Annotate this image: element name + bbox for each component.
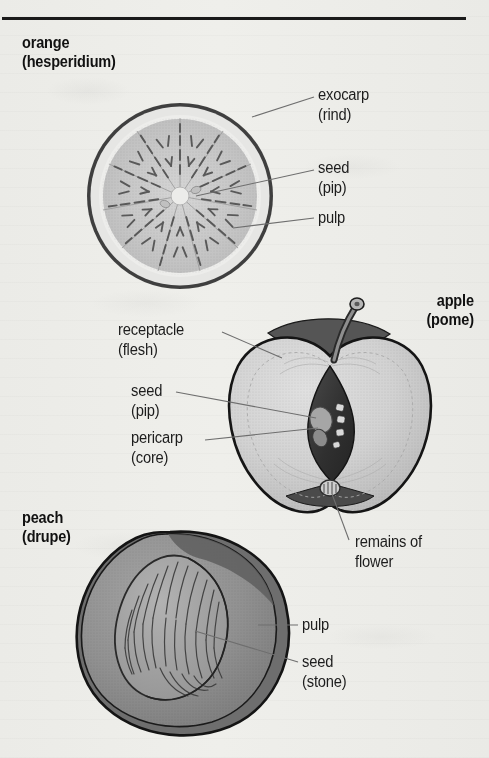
peach-label-seed-line1: seed (302, 652, 347, 672)
peach-illustration (0, 0, 489, 758)
peach-label-seed: seed (stone) (302, 652, 347, 691)
peach-label-seed-line2: (stone) (302, 672, 347, 692)
peach-label-pulp-text: pulp (302, 615, 329, 635)
peach-label-pulp: pulp (302, 615, 329, 635)
diagram-page: orange (hesperidium) (0, 0, 489, 758)
